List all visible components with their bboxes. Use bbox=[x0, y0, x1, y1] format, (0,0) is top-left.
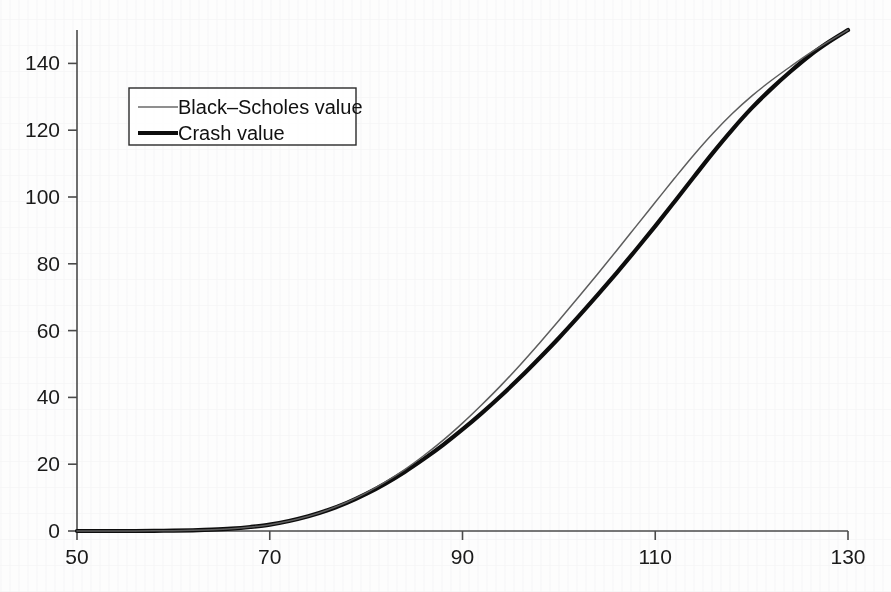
y-tick-label: 80 bbox=[37, 252, 60, 275]
y-tick-label: 60 bbox=[37, 319, 60, 342]
x-tick-label: 90 bbox=[451, 545, 474, 568]
y-tick-label: 20 bbox=[37, 452, 60, 475]
y-tick-label: 40 bbox=[37, 385, 60, 408]
y-tick-label: 0 bbox=[48, 519, 60, 542]
x-axis-ticks: 507090110130 bbox=[65, 531, 865, 568]
chart-figure: 020406080100120140 507090110130 Black–Sc… bbox=[0, 0, 891, 592]
legend-label-black-scholes: Black–Scholes value bbox=[178, 96, 363, 118]
y-tick-label: 120 bbox=[25, 118, 60, 141]
legend-label-crash: Crash value bbox=[178, 122, 285, 144]
line-chart-plot: 020406080100120140 507090110130 Black–Sc… bbox=[0, 0, 891, 592]
chart-legend: Black–Scholes value Crash value bbox=[129, 88, 363, 145]
y-tick-label: 140 bbox=[25, 51, 60, 74]
x-tick-label: 130 bbox=[830, 545, 865, 568]
x-tick-label: 70 bbox=[258, 545, 281, 568]
x-tick-label: 110 bbox=[639, 545, 672, 568]
y-tick-label: 100 bbox=[25, 185, 60, 208]
x-tick-label: 50 bbox=[65, 545, 88, 568]
y-axis-ticks: 020406080100120140 bbox=[25, 51, 77, 542]
